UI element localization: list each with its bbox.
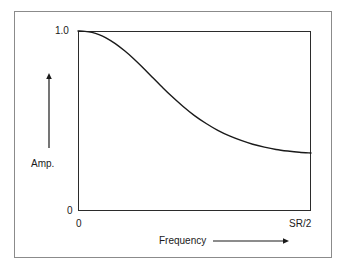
y-axis-tick-label-top: 1.0 xyxy=(55,26,69,36)
arrow-up-icon xyxy=(41,72,57,150)
y-axis-tick-label-bottom: 0 xyxy=(67,206,73,216)
amplitude-response-curve xyxy=(78,31,311,211)
arrow-right-icon xyxy=(212,234,290,248)
x-axis-title: Frequency xyxy=(159,236,206,246)
x-axis-tick-label-left: 0 xyxy=(76,219,82,229)
figure-container: 1.0 0 0 SR/2 Amp. Frequency xyxy=(0,0,345,273)
x-axis-tick-label-right: SR/2 xyxy=(289,219,311,229)
curve-path xyxy=(78,31,311,153)
y-axis-title: Amp. xyxy=(31,159,54,169)
